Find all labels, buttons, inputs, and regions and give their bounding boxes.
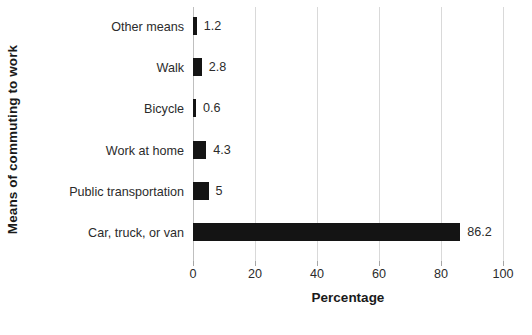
y-axis-title-text: Means of commuting to work <box>6 44 21 233</box>
x-tick-label: 60 <box>372 267 386 281</box>
x-tick-label: 80 <box>434 267 448 281</box>
x-tick-mark <box>193 261 194 266</box>
gridline <box>503 7 504 261</box>
bar <box>193 99 196 117</box>
x-tick-label: 40 <box>310 267 324 281</box>
bar-value-label: 4.3 <box>213 141 231 159</box>
y-axis-title: Means of commuting to work <box>0 0 26 278</box>
category-label: Bicycle <box>144 99 184 119</box>
x-tick-mark <box>503 261 504 266</box>
bar-value-label: 2.8 <box>209 58 227 76</box>
bar-chart: Means of commuting to work Other meansWa… <box>0 0 532 335</box>
x-axis-title: Percentage <box>193 290 503 305</box>
bar <box>193 17 197 35</box>
category-label: Work at home <box>106 141 184 161</box>
bar <box>193 141 206 159</box>
bar <box>193 223 460 241</box>
category-label: Walk <box>156 58 184 78</box>
bar-value-label: 0.6 <box>203 99 221 117</box>
bar-value-label: 1.2 <box>204 17 222 35</box>
category-label-column: Other meansWalkBicycleWork at homePublic… <box>26 7 189 261</box>
category-label: Public transportation <box>69 182 184 202</box>
bar <box>193 182 209 200</box>
x-axis-ticks: 020406080100 <box>193 261 503 285</box>
x-tick-mark <box>255 261 256 266</box>
x-tick-mark <box>441 261 442 266</box>
x-tick-label: 0 <box>189 267 196 281</box>
category-label: Other means <box>111 17 184 37</box>
x-tick-label: 100 <box>492 267 513 281</box>
bar-value-label: 86.2 <box>467 223 492 241</box>
bar <box>193 58 202 76</box>
bar-value-label: 5 <box>216 182 223 200</box>
x-tick-mark <box>379 261 380 266</box>
plot-area: 1.22.80.64.3586.2 <box>193 7 503 261</box>
x-tick-label: 20 <box>248 267 262 281</box>
x-tick-mark <box>317 261 318 266</box>
category-label: Car, truck, or van <box>88 223 184 243</box>
